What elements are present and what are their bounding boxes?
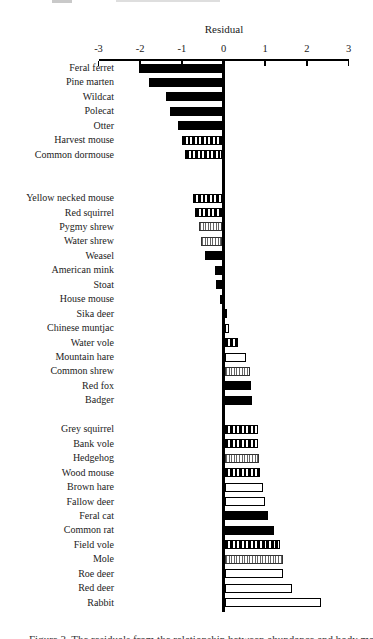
category-label: Red fox — [0, 379, 114, 393]
x-tick-label: 1 — [252, 43, 278, 54]
category-label: Rabbit — [0, 596, 114, 610]
bar — [225, 425, 258, 434]
bar — [205, 251, 222, 260]
category-label: House mouse — [0, 292, 114, 306]
category-label: Mountain hare — [0, 350, 114, 364]
page-edge-artifact — [116, 0, 220, 2]
category-label: Mole — [0, 552, 114, 566]
axis-title: Residual — [183, 23, 265, 35]
x-tick-label: -2 — [127, 43, 153, 54]
figure-caption: Figure 3. The residuals from the relatio… — [29, 633, 373, 639]
category-label: Feral ferret — [0, 61, 114, 75]
category-label: Badger — [0, 393, 114, 407]
bar — [182, 136, 222, 145]
bar — [139, 64, 222, 73]
bar — [225, 324, 229, 333]
bar — [225, 439, 258, 448]
category-label: Field vole — [0, 538, 114, 552]
category-label: Pine marten — [0, 75, 114, 89]
category-label: Feral cat — [0, 509, 114, 523]
x-axis-tick — [264, 61, 266, 66]
category-label: American mink — [0, 263, 114, 277]
category-label: Yellow necked mouse — [0, 191, 114, 205]
x-tick-label: 3 — [336, 43, 362, 54]
bar — [225, 468, 260, 477]
bar — [199, 222, 222, 231]
bar — [149, 78, 222, 87]
figure: Residual -3-2-10123Feral ferretPine mart… — [0, 0, 373, 639]
bar — [225, 569, 283, 578]
bar — [166, 92, 222, 101]
bar — [170, 107, 222, 116]
bar — [215, 266, 223, 275]
bar — [193, 194, 222, 203]
bar — [185, 150, 223, 159]
x-tick-label: -1 — [169, 43, 195, 54]
category-label: Weasel — [0, 249, 114, 263]
bar — [201, 237, 222, 246]
category-label: Wood mouse — [0, 466, 114, 480]
category-label: Red deer — [0, 581, 114, 595]
bar — [225, 540, 280, 549]
bar — [225, 396, 252, 405]
category-label: Grey squirrel — [0, 422, 114, 436]
bar — [225, 555, 283, 564]
x-tick-label: 0 — [211, 43, 237, 54]
category-label: Common dormouse — [0, 148, 114, 162]
category-label: Common shrew — [0, 364, 114, 378]
category-label: Fallow deer — [0, 495, 114, 509]
x-tick-label: 2 — [294, 43, 320, 54]
bar — [225, 309, 227, 318]
bar — [225, 526, 274, 535]
bar — [195, 208, 222, 217]
category-label: Wildcat — [0, 90, 114, 104]
x-axis-tick — [348, 61, 350, 66]
bar — [225, 381, 251, 390]
category-label: Harvest mouse — [0, 133, 114, 147]
category-label: Bank vole — [0, 437, 114, 451]
category-label: Chinese muntjac — [0, 321, 114, 335]
category-label: Red squirrel — [0, 206, 114, 220]
bar — [225, 338, 238, 347]
category-label: Brown hare — [0, 480, 114, 494]
bar — [225, 598, 321, 607]
category-label: Otter — [0, 119, 114, 133]
bar — [225, 353, 246, 362]
bar — [225, 483, 263, 492]
category-label: Roe deer — [0, 567, 114, 581]
page-edge-artifact — [52, 0, 72, 3]
x-tick-label: -3 — [86, 43, 112, 54]
bar — [225, 511, 268, 520]
bar — [225, 497, 265, 506]
bar — [216, 280, 222, 289]
category-label: Stoat — [0, 278, 114, 292]
category-label: Water shrew — [0, 234, 114, 248]
category-label: Pygmy shrew — [0, 220, 114, 234]
bar — [225, 454, 259, 463]
bar — [225, 584, 292, 593]
category-label: Common rat — [0, 523, 114, 537]
bar — [178, 121, 222, 130]
x-axis-tick — [306, 61, 308, 66]
category-label: Water vole — [0, 336, 114, 350]
bar — [225, 367, 250, 376]
category-label: Sika deer — [0, 307, 114, 321]
category-label: Polecat — [0, 104, 114, 118]
category-label: Hedgehog — [0, 451, 114, 465]
bar — [220, 295, 222, 304]
